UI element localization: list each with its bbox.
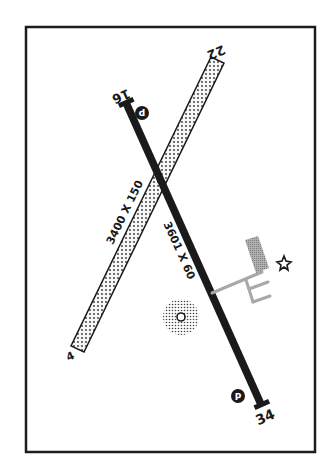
segmented-circle-icon bbox=[163, 299, 199, 335]
svg-text:P: P bbox=[235, 392, 242, 402]
pattern-marker-south: P bbox=[231, 389, 245, 403]
pattern-marker-north: P bbox=[135, 106, 149, 120]
airport-diagram: P P 16 34 22 4 3400 X 150 3601 X 60 bbox=[0, 0, 334, 472]
svg-text:P: P bbox=[138, 107, 145, 117]
